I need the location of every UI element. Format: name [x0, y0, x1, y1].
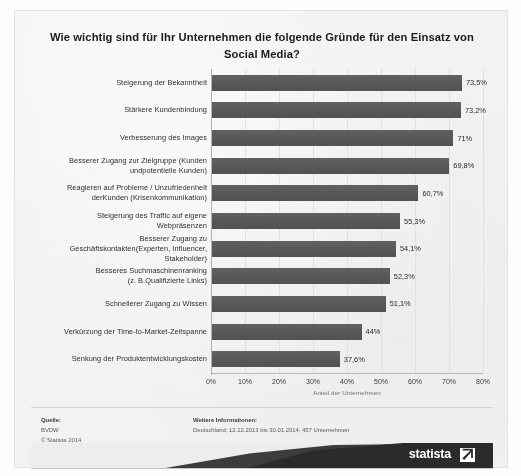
bar-group[interactable]: 54,1% — [212, 241, 421, 257]
bar-value-label: 37,6% — [344, 355, 365, 364]
chart-row: Verbesserung des Images71% — [31, 130, 493, 146]
category-label: Besserer Zugang zuGeschäftskontakten(Exp… — [37, 234, 207, 264]
chart-row: Verkürzung der Time-to-Market-Zeitspanne… — [31, 324, 493, 340]
bar-group[interactable]: 71% — [212, 130, 472, 146]
bar[interactable] — [212, 268, 390, 284]
x-tick-label: 80% — [476, 378, 490, 385]
chart-row: Stärkere Kundenbindung73,2% — [31, 102, 493, 118]
bar[interactable] — [212, 130, 453, 146]
bar-group[interactable]: 73,2% — [212, 102, 486, 118]
x-tick-label: 70% — [442, 378, 456, 385]
chart-row: Besserer Zugang zur Zielgruppe (Kundenun… — [31, 158, 493, 174]
bar-group[interactable]: 60,7% — [212, 185, 443, 201]
chart-row: Besseres Suchmaschinenranking(z. B.Quali… — [31, 268, 493, 284]
bar[interactable] — [212, 351, 340, 367]
chart-row: Steigerung der Bekanntheit73,5% — [31, 75, 493, 91]
category-label: Schnellerer Zugang zu Wissen — [37, 299, 207, 309]
bar-value-label: 44% — [366, 327, 381, 336]
footer-source: Quelle: BVDW © Statista 2014 — [41, 415, 191, 445]
category-label: Reagieren auf Probleme / Unzufriedenheit… — [37, 183, 207, 203]
bar-value-label: 71% — [457, 134, 472, 143]
bar[interactable] — [212, 185, 418, 201]
bar-group[interactable]: 69,8% — [212, 158, 474, 174]
x-axis-title: Anteil der Unternehmen — [211, 389, 483, 396]
bar-group[interactable]: 44% — [212, 324, 380, 340]
chart-row: Schnellerer Zugang zu Wissen51,1% — [31, 296, 493, 312]
bar-value-label: 55,3% — [404, 217, 425, 226]
x-axis-ticks: 0%10%20%30%40%50%60%70%80% — [211, 375, 483, 389]
page-title: Wie wichtig sind für Ihr Unternehmen die… — [45, 29, 479, 64]
bar-value-label: 73,5% — [466, 78, 487, 87]
category-label: Senkung der Produktentwicklungskosten — [37, 354, 207, 364]
bar-group[interactable]: 73,5% — [212, 75, 487, 91]
footer-source-line-0: BVDW — [41, 427, 59, 433]
bar[interactable] — [212, 241, 396, 257]
bar-group[interactable]: 52,3% — [212, 268, 415, 284]
bar-value-label: 73,2% — [465, 106, 486, 115]
footer-bottom-divider — [31, 468, 493, 469]
statista-logo-bar: statista — [31, 443, 493, 468]
footer-info-heading: Weitere Informationen: — [193, 415, 433, 425]
footer-info: Weitere Informationen: Deutschland; 12.1… — [193, 415, 433, 435]
category-label: Verbesserung des Images — [37, 133, 207, 143]
chart-row: Besserer Zugang zuGeschäftskontakten(Exp… — [31, 241, 493, 257]
footer-divider — [31, 407, 493, 408]
bar-value-label: 60,7% — [422, 189, 443, 198]
statista-wordmark: statista — [409, 447, 451, 461]
screenshot-root: Wie wichtig sind für Ihr Unternehmen die… — [0, 0, 521, 476]
footer-info-line-0: Deutschland; 12.12.2013 bis 30.01.2014; … — [193, 427, 349, 433]
bar-value-label: 54,1% — [400, 244, 421, 253]
bar[interactable] — [212, 102, 461, 118]
category-label: Besseres Suchmaschinenranking(z. B.Quali… — [37, 266, 207, 286]
bar-rows: Steigerung der Bekanntheit73,5%Stärkere … — [31, 69, 493, 373]
chart-row: Reagieren auf Probleme / Unzufriedenheit… — [31, 185, 493, 201]
category-label: Steigerung des Traffic auf eigeneWebpräs… — [37, 211, 207, 231]
x-tick-label: 50% — [374, 378, 388, 385]
bar[interactable] — [212, 324, 362, 340]
x-tick-label: 30% — [306, 378, 320, 385]
chart-plot-area: Steigerung der Bekanntheit73,5%Stärkere … — [31, 69, 493, 391]
chart-row: Senkung der Produktentwicklungskosten37,… — [31, 351, 493, 367]
category-label: Besserer Zugang zur Zielgruppe (Kundenun… — [37, 156, 207, 176]
bar[interactable] — [212, 296, 386, 312]
statista-logo-icon — [460, 448, 475, 462]
x-axis-line — [211, 373, 483, 374]
x-tick-label: 20% — [272, 378, 286, 385]
x-tick-label: 0% — [206, 378, 216, 385]
category-label: Verkürzung der Time-to-Market-Zeitspanne — [37, 327, 207, 337]
x-tick-label: 10% — [238, 378, 252, 385]
bar-value-label: 52,3% — [394, 272, 415, 281]
x-tick-label: 40% — [340, 378, 354, 385]
bar-group[interactable]: 55,3% — [212, 213, 425, 229]
bar[interactable] — [212, 213, 400, 229]
footer-source-heading: Quelle: — [41, 415, 191, 425]
bar-group[interactable]: 51,1% — [212, 296, 411, 312]
category-label: Stärkere Kundenbindung — [37, 105, 207, 115]
bar-value-label: 69,8% — [453, 161, 474, 170]
statista-infographic-panel: Wie wichtig sind für Ihr Unternehmen die… — [14, 10, 508, 468]
category-label: Steigerung der Bekanntheit — [37, 78, 207, 88]
chart-row: Steigerung des Traffic auf eigeneWebpräs… — [31, 213, 493, 229]
bar-group[interactable]: 37,6% — [212, 351, 365, 367]
bar-value-label: 51,1% — [390, 299, 411, 308]
bar[interactable] — [212, 75, 462, 91]
bar[interactable] — [212, 158, 449, 174]
x-tick-label: 60% — [408, 378, 422, 385]
